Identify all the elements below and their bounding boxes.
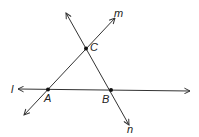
point-a: [46, 87, 50, 91]
line-l: [18, 89, 190, 91]
label-point-b: B: [102, 94, 109, 105]
diagram-lines: [0, 0, 199, 137]
label-line-l: l: [11, 84, 13, 95]
label-line-n: n: [127, 124, 133, 135]
label-point-a: A: [44, 93, 51, 104]
label-line-m: m: [114, 8, 123, 19]
point-c: [84, 47, 88, 51]
point-b: [109, 88, 113, 92]
line-n: [66, 13, 129, 125]
label-point-c: C: [90, 42, 98, 53]
geometry-diagram: l m n A B C: [0, 0, 199, 137]
